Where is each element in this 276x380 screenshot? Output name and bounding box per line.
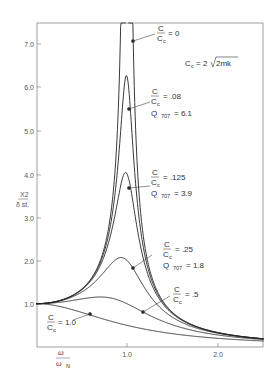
- x-axis: 1.0 2.0: [122, 343, 223, 358]
- svg-text:= 6.1: = 6.1: [174, 109, 193, 118]
- x-axis-label: ω ω N: [56, 348, 70, 369]
- svg-text:C: C: [158, 24, 164, 33]
- x-tick-2: 2.0: [213, 351, 223, 358]
- svg-text:Q: Q: [163, 261, 169, 270]
- svg-text:= 2: = 2: [196, 59, 208, 68]
- curve-zeta-0.08: [36, 76, 264, 339]
- label-zeta-125: C C c = .125 Q 707 = 3.9: [151, 168, 193, 199]
- y-tick-5: 5.0: [24, 128, 34, 135]
- y-tick-1: 1.0: [24, 301, 34, 308]
- svg-text:C: C: [152, 87, 158, 96]
- y-tick-2: 2.0: [24, 258, 34, 265]
- svg-text:c: c: [157, 182, 160, 188]
- y-axis-label: X2 δ st.: [16, 191, 29, 208]
- svg-text:707: 707: [173, 265, 182, 271]
- plot-frame: [37, 23, 263, 347]
- svg-text:= .125: = .125: [163, 173, 186, 182]
- y-tick-4: 4.0: [24, 172, 34, 179]
- svg-text:δ st.: δ st.: [16, 201, 29, 208]
- svg-text:c: c: [157, 101, 160, 107]
- svg-text:N: N: [66, 363, 70, 369]
- y-tick-6: 6.0: [24, 84, 34, 91]
- label-zeta-08: C C c = .08 Q 707 = 6.1: [151, 87, 193, 119]
- label-zeta-5: C C c = .5: [173, 285, 199, 305]
- svg-text:c: c: [179, 299, 182, 305]
- svg-text:Q: Q: [151, 109, 157, 118]
- svg-text:= .5: = .5: [185, 290, 199, 299]
- svg-text:X2: X2: [20, 191, 29, 198]
- svg-text:c: c: [53, 327, 56, 333]
- y-tick-3: 3.0: [24, 215, 34, 222]
- svg-text:c: c: [163, 38, 166, 44]
- x-tick-1: 1.0: [122, 351, 132, 358]
- response-curves: [36, 23, 264, 341]
- svg-text:707: 707: [161, 193, 170, 199]
- label-zeta-25: C C c = .25 Q 707 = 1.8: [163, 240, 205, 271]
- cc-formula: C c = 2 2mk: [185, 57, 238, 69]
- chart: 7.0 6.0 5.0 4.0 3.0 2.0 1.0 1.0 2.0 X2 δ…: [0, 0, 276, 380]
- svg-text:707: 707: [161, 113, 170, 119]
- curve-zeta-0.125: [36, 172, 264, 338]
- svg-text:Q: Q: [151, 189, 157, 198]
- label-zeta-1: C C c = 1.0: [47, 313, 77, 333]
- svg-text:c: c: [191, 63, 194, 69]
- svg-text:C: C: [164, 240, 170, 249]
- svg-text:= 3.9: = 3.9: [174, 189, 193, 198]
- svg-text:= .25: = .25: [175, 245, 194, 254]
- svg-text:C: C: [48, 313, 54, 322]
- svg-text:ω: ω: [58, 348, 64, 357]
- svg-text:= .08: = .08: [163, 92, 182, 101]
- y-axis: 7.0 6.0 5.0 4.0 3.0 2.0 1.0: [24, 41, 41, 308]
- svg-text:C: C: [152, 168, 158, 177]
- svg-text:ω: ω: [56, 359, 62, 368]
- svg-text:= 0: = 0: [168, 29, 180, 38]
- y-tick-7: 7.0: [24, 41, 34, 48]
- svg-text:c: c: [169, 254, 172, 260]
- svg-text:= 1.0: = 1.0: [58, 318, 77, 327]
- svg-text:C: C: [174, 285, 180, 294]
- svg-text:= 1.8: = 1.8: [186, 261, 205, 270]
- svg-text:2mk: 2mk: [216, 59, 232, 68]
- label-zeta-0: C C c = 0: [157, 24, 180, 44]
